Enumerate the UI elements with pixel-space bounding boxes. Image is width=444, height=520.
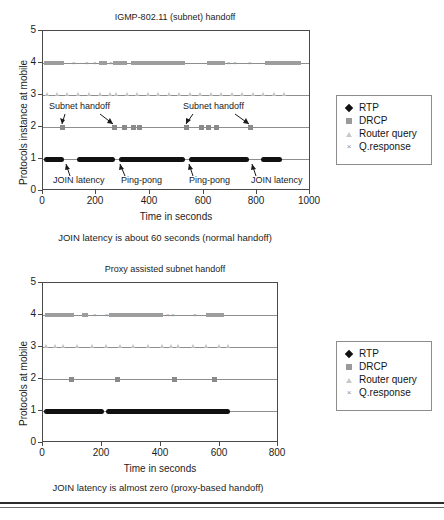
x-tick-mark: [203, 190, 204, 194]
series-qresponse-band: [206, 313, 224, 317]
routerquery-marker: [61, 344, 65, 348]
legend-top: RTP DRCP Router query × Q.response: [336, 95, 432, 165]
routerquery-marker: [226, 344, 230, 348]
x-tick-mark: [95, 190, 96, 194]
x-axis-label-bottom: Time in seconds: [42, 463, 278, 474]
x-tick-mark: [309, 190, 310, 194]
routerquery-marker: [75, 344, 79, 348]
chart-igmp-handoff: IGMP-802.11 (subnet) handoff Protocols i…: [0, 0, 320, 250]
drcp-marker: [172, 377, 177, 382]
routerquery-marker: [90, 344, 94, 348]
y-tick-2-bottom: 2: [18, 372, 36, 383]
drcp-marker: [212, 377, 217, 382]
chart-title-top: IGMP-802.11 (subnet) handoff: [40, 12, 310, 22]
triangle-icon: [343, 378, 355, 383]
routerquery-marker: [217, 344, 221, 348]
x-axis-label-top: Time in seconds: [42, 211, 310, 222]
x-tick-200-bottom: 200: [81, 447, 121, 458]
square-icon: [343, 118, 355, 124]
drcp-marker: [69, 377, 74, 382]
y-tick-1-bottom: 1: [18, 404, 36, 415]
qresponse-marker: ×: [105, 312, 109, 318]
diamond-icon: [343, 105, 355, 111]
annotation-join-latency-1: JOIN latency: [53, 175, 105, 185]
legend-item-rtp[interactable]: RTP: [343, 102, 424, 114]
x-tick-mark: [160, 442, 161, 446]
x-tick-400-top: 400: [129, 195, 169, 206]
routerquery-marker: [191, 344, 195, 348]
plot-area-top: × × × × × × ×: [42, 30, 310, 190]
x-tick-0-bottom: 0: [22, 447, 62, 458]
routerquery-marker: [146, 344, 150, 348]
x-tick-mark: [256, 190, 257, 194]
routerquery-marker: [169, 344, 173, 348]
legend-item-router-query[interactable]: Router query: [343, 128, 424, 140]
qresponse-marker: ×: [171, 312, 175, 318]
y-tick-2-top: 2: [18, 120, 36, 131]
series-qresponse-band: [45, 313, 74, 317]
routerquery-marker: [44, 344, 48, 348]
x-tick-mark: [42, 190, 43, 194]
legend-item-router-query[interactable]: Router query: [343, 374, 424, 386]
legend-bottom: RTP DRCP Router query × Q.response: [336, 341, 432, 411]
y-tick-5-top: 5: [18, 24, 36, 35]
x-tick-1000-top: 1000: [289, 195, 329, 206]
legend-label: DRCP: [359, 115, 387, 127]
x-tick-600-top: 600: [183, 195, 223, 206]
y-tick-3-top: 3: [18, 88, 36, 99]
caption-bottom: JOIN latency is almost zero (proxy-based…: [8, 482, 308, 493]
gridline-y2: [43, 379, 277, 380]
x-tick-mark: [42, 442, 43, 446]
x-icon: ×: [343, 143, 355, 151]
arrow-subnet-1a: [43, 31, 311, 191]
annotation-ping-pong-1: Ping-pong: [121, 175, 162, 185]
footer-rule-thin: [0, 507, 444, 508]
caption-top: JOIN latency is about 60 seconds (normal…: [10, 232, 320, 243]
routerquery-marker: [160, 344, 164, 348]
x-icon: ×: [343, 389, 355, 397]
legend-label: Q.response: [359, 387, 411, 399]
triangle-icon: [343, 132, 355, 137]
rtp-segment: [44, 409, 104, 414]
legend-label: Router query: [359, 374, 417, 386]
annotation-ping-pong-2: Ping-pong: [189, 175, 230, 185]
y-tick-4-top: 4: [18, 56, 36, 67]
legend-item-qresponse[interactable]: × Q.response: [343, 387, 424, 399]
y-tick-1-top: 1: [18, 152, 36, 163]
qresponse-marker: ×: [166, 312, 170, 318]
x-tick-800-bottom: 800: [257, 447, 297, 458]
qresponse-marker: ×: [193, 312, 197, 318]
y-tick-0-top: 0: [18, 184, 36, 195]
x-tick-mark: [149, 190, 150, 194]
footer-rule-thick: [0, 502, 444, 504]
routerquery-marker: [118, 344, 122, 348]
square-icon: [343, 364, 355, 370]
legend-label: Router query: [359, 128, 417, 140]
drcp-marker: [115, 377, 120, 382]
x-tick-200-top: 200: [75, 195, 115, 206]
y-tick-0-bottom: 0: [18, 436, 36, 447]
legend-item-qresponse[interactable]: × Q.response: [343, 141, 424, 153]
legend-item-drcp[interactable]: DRCP: [343, 361, 424, 373]
diamond-icon: [343, 351, 355, 357]
legend-item-drcp[interactable]: DRCP: [343, 115, 424, 127]
routerquery-marker: [53, 344, 57, 348]
chart-title-bottom: Proxy assisted subnet handoff: [40, 264, 290, 274]
legend-label: RTP: [359, 102, 379, 114]
y-tick-5-bottom: 5: [18, 276, 36, 287]
x-tick-mark: [219, 442, 220, 446]
x-tick-800-top: 800: [236, 195, 276, 206]
plot-area-bottom: × × × × ×: [42, 282, 278, 442]
figure-page: IGMP-802.11 (subnet) handoff Protocols i…: [0, 0, 444, 520]
rtp-segment: [106, 409, 230, 414]
routerquery-marker: [104, 344, 108, 348]
x-tick-mark: [277, 442, 278, 446]
y-tick-4-bottom: 4: [18, 308, 36, 319]
y-tick-3-bottom: 3: [18, 340, 36, 351]
chart-proxy-handoff: Proxy assisted subnet handoff Protocols …: [0, 256, 320, 496]
annotation-join-latency-2: JOIN latency: [251, 175, 303, 185]
routerquery-marker: [176, 344, 180, 348]
routerquery-marker: [204, 344, 208, 348]
legend-label: Q.response: [359, 141, 411, 153]
legend-item-rtp[interactable]: RTP: [343, 348, 424, 360]
